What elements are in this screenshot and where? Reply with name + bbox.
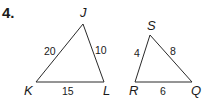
vertex-label-s: S (147, 18, 156, 33)
triangle-srq: S R Q 4 8 6 (129, 18, 201, 98)
vertex-label-k: K (24, 83, 34, 98)
vertex-label-l: L (103, 83, 110, 98)
diagram-canvas: 4. J K L 20 10 15 S R Q 4 8 6 (0, 0, 211, 111)
side-length-jl: 10 (95, 44, 107, 56)
side-length-sq: 8 (170, 45, 176, 57)
vertex-label-q: Q (191, 83, 201, 98)
triangle-jkl: J K L 20 10 15 (24, 5, 110, 98)
vertex-label-j: J (79, 5, 87, 20)
side-length-kj: 20 (44, 45, 56, 57)
side-length-kl: 15 (62, 85, 74, 97)
problem-number: 4. (2, 4, 15, 21)
side-length-rs: 4 (134, 47, 140, 59)
vertex-label-r: R (129, 83, 138, 98)
triangle-srq-shape (135, 35, 192, 82)
side-length-rq: 6 (160, 85, 166, 97)
